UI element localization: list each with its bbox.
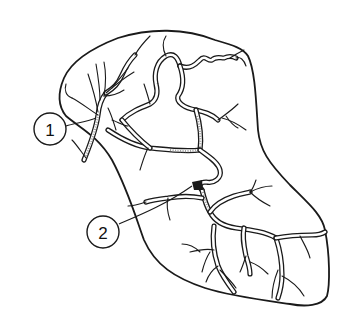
label-2-leader (119, 186, 192, 224)
label-1: 1 (34, 113, 96, 145)
label-1-text: 1 (45, 121, 54, 140)
vessel-diagram: 1 2 (0, 0, 359, 327)
vessel-connector (108, 120, 220, 190)
vessel-upper-loop (106, 55, 236, 150)
organ-outline (60, 31, 329, 306)
label-2-text: 2 (98, 224, 107, 243)
vessel-trunk-1 (84, 93, 106, 160)
